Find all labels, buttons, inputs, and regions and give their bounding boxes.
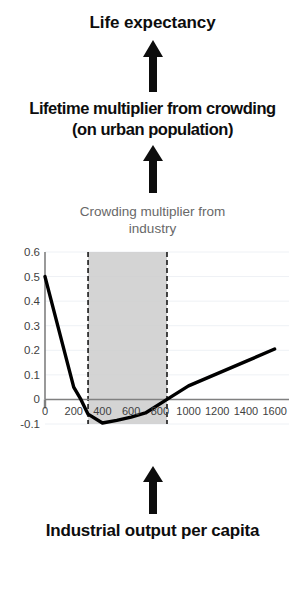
svg-text:0.2: 0.2 xyxy=(24,344,40,356)
page-title: Life expectancy xyxy=(89,14,215,33)
chart-svg: 0.60.50.40.30.20.10-0.102004006008001000… xyxy=(10,244,295,457)
up-arrow-icon xyxy=(139,465,167,515)
svg-text:800: 800 xyxy=(151,405,169,417)
svg-text:0: 0 xyxy=(34,393,40,405)
svg-text:1600: 1600 xyxy=(262,405,286,417)
mid-label-line-1: Lifetime multiplier from crowding xyxy=(0,98,305,119)
svg-text:400: 400 xyxy=(93,405,111,417)
svg-text:1000: 1000 xyxy=(176,405,200,417)
chart: 0.60.50.40.30.20.10-0.102004006008001000… xyxy=(10,244,295,457)
up-arrow-icon xyxy=(139,144,167,194)
chart-title: Crowding multiplier from industry xyxy=(28,203,278,238)
diagram-root: Life expectancy Lifetime multiplier from… xyxy=(0,0,305,596)
svg-text:1200: 1200 xyxy=(205,405,229,417)
mid-label: Lifetime multiplier from crowding (on ur… xyxy=(0,98,305,140)
svg-text:0.1: 0.1 xyxy=(24,369,40,381)
svg-text:1400: 1400 xyxy=(234,405,258,417)
chart-title-line-2: industry xyxy=(28,220,278,238)
svg-text:0: 0 xyxy=(42,405,48,417)
mid-label-line-2: (on urban population) xyxy=(0,119,305,140)
svg-text:200: 200 xyxy=(65,405,83,417)
svg-text:0.5: 0.5 xyxy=(24,271,40,283)
svg-text:0.4: 0.4 xyxy=(24,295,41,307)
bottom-label: Industrial output per capita xyxy=(46,521,260,541)
svg-text:600: 600 xyxy=(122,405,140,417)
svg-text:0.6: 0.6 xyxy=(24,246,40,258)
up-arrow-icon xyxy=(139,39,167,93)
svg-text:-0.1: -0.1 xyxy=(20,418,40,430)
svg-text:0.3: 0.3 xyxy=(24,320,40,332)
chart-title-line-1: Crowding multiplier from xyxy=(28,203,278,221)
